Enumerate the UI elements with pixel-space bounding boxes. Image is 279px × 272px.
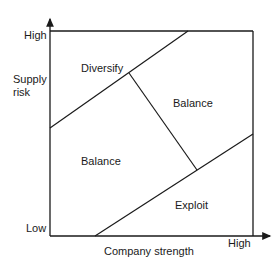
x-axis-high-label: High: [228, 237, 251, 250]
region-diversify: Diversify: [81, 62, 123, 75]
region-balance-lower: Balance: [81, 155, 121, 168]
y-axis-title-line1: Supply: [13, 73, 47, 86]
region-exploit: Exploit: [175, 199, 208, 212]
x-axis-title: Company strength: [104, 245, 194, 258]
y-axis-high-label: High: [24, 29, 47, 42]
y-axis-low-label: Low: [26, 222, 46, 235]
y-axis-title-line2: risk: [13, 86, 30, 99]
lower-diagonal: [95, 134, 253, 236]
region-balance-upper: Balance: [173, 97, 213, 110]
divider-line: [129, 73, 197, 170]
upper-diagonal: [50, 31, 188, 128]
